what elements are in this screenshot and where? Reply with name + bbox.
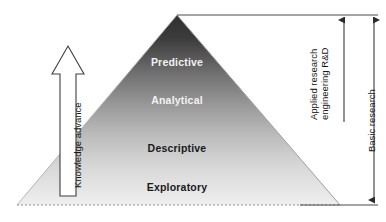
tier-label-predictive: Predictive bbox=[151, 56, 203, 68]
basic-research-label: Basic research bbox=[366, 89, 377, 152]
applied-research-label-line1: Applied research bbox=[308, 49, 319, 120]
tier-label-descriptive: Descriptive bbox=[148, 142, 207, 154]
tier-label-analytical: Analytical bbox=[151, 94, 203, 106]
applied-research-label-line2: engineering R&D bbox=[319, 48, 330, 120]
tier-label-exploratory: Exploratory bbox=[147, 181, 208, 193]
figure-canvas: Predictive Analytical Descriptive Explor… bbox=[0, 0, 386, 222]
knowledge-advance-label: Knowledge advance bbox=[72, 102, 83, 188]
